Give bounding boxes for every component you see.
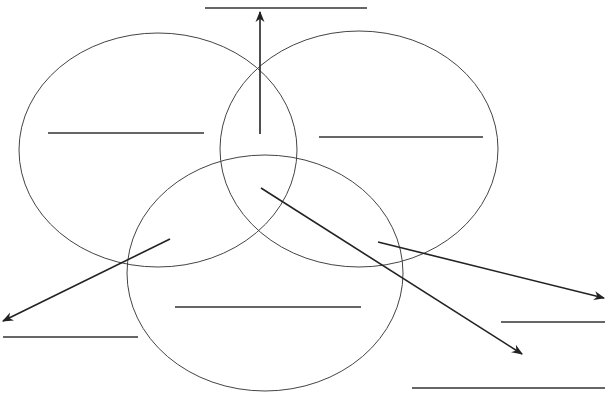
arrow-ac xyxy=(3,239,170,321)
venn-diagram xyxy=(0,0,607,395)
set-b-circle xyxy=(220,31,498,267)
arrow-abc xyxy=(261,188,522,354)
set-a-circle xyxy=(19,33,297,267)
arrow-bc xyxy=(378,242,604,298)
